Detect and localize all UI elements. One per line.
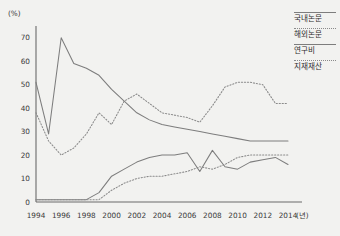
series-line-2 (36, 150, 288, 199)
x-tick-label: 2010 (228, 211, 247, 220)
y-axis-unit-label: (%) (8, 9, 21, 18)
legend-item-label: 해외논문 (294, 30, 340, 40)
y-tick-label: 70 (21, 33, 31, 42)
legend-swatch-dotted-line-icon (294, 60, 336, 61)
legend-item[interactable]: 연구비 (294, 44, 340, 56)
x-tick-label: 2012 (254, 211, 273, 220)
y-tick-label: 0 (25, 198, 30, 207)
x-tick-label: 2014 (279, 211, 298, 220)
legend-item[interactable]: 해외논문 (294, 28, 340, 40)
x-tick-label: 1998 (77, 211, 96, 220)
y-tick-label: 60 (21, 57, 31, 66)
y-tick-label: 40 (21, 104, 31, 113)
y-tick-label: 50 (21, 80, 31, 89)
legend-item-label: 국내논문 (294, 14, 340, 24)
x-tick-label: 1996 (52, 211, 71, 220)
series-line-0 (36, 38, 288, 141)
legend-swatch-solid-line-icon (294, 44, 336, 45)
legend-item[interactable]: 지재재산 (294, 60, 340, 72)
y-tick-label: 10 (21, 174, 31, 183)
x-tick-label: 2002 (128, 211, 147, 220)
chart-canvas: 010203040506070(%)1994199619982000200220… (0, 0, 340, 236)
x-tick-label: 2006 (178, 211, 197, 220)
line-chart: 010203040506070(%)1994199619982000200220… (0, 0, 340, 236)
y-tick-label: 30 (21, 127, 31, 136)
legend-item-label: 연구비 (294, 46, 340, 56)
legend-swatch-dotted-line-icon (294, 28, 336, 29)
x-axis-unit-label: (년) (296, 211, 309, 220)
x-tick-label: 2008 (203, 211, 222, 220)
x-tick-label: 2004 (153, 211, 172, 220)
x-tick-label: 2000 (102, 211, 121, 220)
chart-legend: 국내논문해외논문연구비지재재산 (294, 12, 340, 76)
legend-item-label: 지재재산 (294, 62, 340, 72)
series-line-1 (36, 82, 288, 155)
legend-item[interactable]: 국내논문 (294, 12, 340, 24)
x-tick-label: 1994 (27, 211, 46, 220)
legend-swatch-solid-line-icon (294, 12, 336, 13)
y-tick-label: 20 (21, 151, 31, 160)
